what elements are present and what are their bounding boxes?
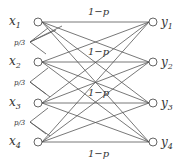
cross-prob-label-3: p/3	[14, 119, 26, 127]
prob-label-4: 1−p	[88, 148, 110, 159]
output-label-y1: y1	[160, 15, 173, 31]
output-label-y2: y2	[160, 55, 173, 71]
output-node-y3	[149, 99, 157, 107]
input-label-x1: x1	[9, 14, 21, 30]
output-node-y4	[149, 138, 157, 146]
prob-label-2: 1−p	[88, 46, 110, 57]
input-node-x4	[34, 138, 42, 146]
input-label-x3: x3	[9, 95, 21, 111]
cross-prob-label-2: p/3	[14, 79, 26, 87]
input-label-x2: x2	[9, 54, 21, 70]
prob-label-1: 1−p	[88, 6, 110, 17]
input-label-x4: x4	[9, 134, 21, 150]
input-node-x3	[34, 99, 42, 107]
prob-label-3: 1−p	[88, 87, 110, 98]
output-node-y2	[149, 58, 157, 66]
input-node-x1	[34, 18, 42, 26]
output-node-y1	[149, 18, 157, 26]
output-label-y4: y4	[160, 135, 173, 151]
cross-prob-label-1: p/3	[14, 39, 26, 47]
output-label-y3: y3	[160, 96, 173, 112]
input-node-x2	[34, 58, 42, 66]
channel-diagram: x1 x2 x3 x4 y1 y2 y3 y4 1−p 1−p 1−p 1−p …	[0, 0, 183, 165]
transition-edges	[30, 22, 149, 142]
